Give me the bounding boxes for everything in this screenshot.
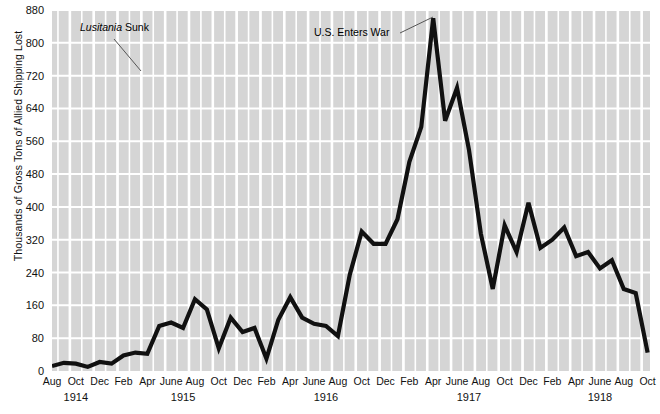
x-tick-label: June: [589, 375, 612, 387]
y-tick-label: 320: [26, 234, 44, 245]
x-tick-label: Apr: [568, 375, 584, 387]
x-axis: AugOctDecFebAprJuneAugOctDecFebAprJuneAu…: [52, 372, 650, 414]
x-tick-label: Dec: [233, 375, 252, 387]
vertical-gridlines: [58, 10, 642, 371]
x-tick-label: Dec: [90, 375, 109, 387]
x-tick-label: Dec: [376, 375, 395, 387]
x-tick-label: Oct: [354, 375, 370, 387]
chart-svg: [52, 10, 650, 371]
y-tick-label: 800: [26, 37, 44, 48]
y-tick-label: 480: [26, 169, 44, 180]
x-tick-label: Aug: [614, 375, 633, 387]
y-tick-label: 400: [26, 201, 44, 212]
x-tick-label: Oct: [639, 375, 655, 387]
y-tick-label: 560: [26, 136, 44, 147]
y-tick-label: 640: [26, 103, 44, 114]
y-tick-label: 160: [26, 300, 44, 311]
x-tick-label: Oct: [496, 375, 512, 387]
y-tick-label: 80: [32, 333, 44, 344]
x-tick-label: June: [446, 375, 469, 387]
x-tick-label: Feb: [114, 375, 132, 387]
y-axis-tick-labels: 080160240320400480560640720800880: [0, 0, 48, 414]
x-tick-label: Dec: [519, 375, 538, 387]
chart-figure: Thousands of Gross Tons of Allied Shippi…: [0, 0, 660, 414]
x-tick-label: Feb: [543, 375, 561, 387]
lusitania-annotation-rest: Sunk: [122, 21, 149, 33]
x-tick-label: Feb: [257, 375, 275, 387]
y-tick-label: 880: [26, 5, 44, 16]
lusitania-annotation: Lusitania Sunk: [80, 21, 149, 33]
x-tick-label: Apr: [425, 375, 441, 387]
x-tick-label: June: [303, 375, 326, 387]
x-axis-year-label: 1914: [64, 391, 88, 403]
x-axis-year-label: 1917: [457, 391, 481, 403]
x-tick-label: Aug: [329, 375, 348, 387]
x-tick-label: Oct: [211, 375, 227, 387]
x-tick-label: June: [160, 375, 183, 387]
x-tick-label: Oct: [68, 375, 84, 387]
y-tick-label: 240: [26, 267, 44, 278]
lusitania-annotation-ship: Lusitania: [80, 21, 122, 33]
x-tick-label: Aug: [472, 375, 491, 387]
x-tick-label: Aug: [186, 375, 205, 387]
x-tick-label: Apr: [282, 375, 298, 387]
x-axis-year-label: 1915: [171, 391, 195, 403]
plot-area: Lusitania Sunk U.S. Enters War: [52, 10, 650, 371]
x-tick-label: Aug: [43, 375, 62, 387]
y-tick-label: 720: [26, 70, 44, 81]
x-tick-label: Feb: [400, 375, 418, 387]
us-enters-war-annotation: U.S. Enters War: [314, 26, 389, 38]
x-axis-year-label: 1916: [314, 391, 338, 403]
x-axis-year-label: 1918: [588, 391, 612, 403]
x-tick-label: Apr: [139, 375, 155, 387]
